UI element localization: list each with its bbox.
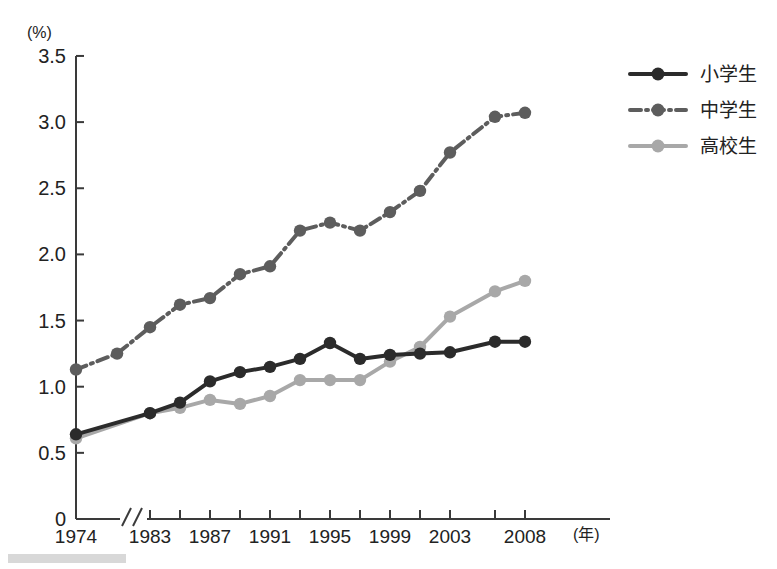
data-point (354, 353, 366, 365)
y-tick-label: 3.0 (38, 111, 66, 133)
data-point (324, 216, 336, 228)
data-point (144, 321, 156, 333)
data-point (204, 292, 216, 304)
data-point (324, 337, 336, 349)
footer-decoration-bar (8, 554, 126, 563)
data-point (294, 353, 306, 365)
data-point (489, 285, 501, 297)
y-axis-unit-label: (%) (27, 24, 52, 41)
x-tick-label: 2008 (504, 526, 546, 547)
x-tick-label: 1974 (55, 526, 98, 547)
data-point (264, 390, 276, 402)
data-point (294, 374, 306, 386)
data-point (489, 111, 501, 123)
data-point (324, 374, 336, 386)
x-tick-label: 2003 (429, 526, 471, 547)
data-point (111, 347, 123, 359)
x-tick-label: 1987 (189, 526, 231, 547)
data-point (384, 349, 396, 361)
legend-label: 小学生 (700, 63, 757, 85)
x-tick-label: 1999 (369, 526, 411, 547)
data-point (444, 146, 456, 158)
data-point (519, 336, 531, 348)
y-tick-label: 2.5 (38, 177, 66, 199)
data-point (70, 363, 82, 375)
data-point (519, 107, 531, 119)
y-tick-label: 1.0 (38, 376, 66, 398)
data-point (174, 299, 186, 311)
data-point (204, 394, 216, 406)
data-point (519, 275, 531, 287)
data-point (144, 407, 156, 419)
data-point (354, 374, 366, 386)
data-point (234, 366, 246, 378)
legend-label: 中学生 (700, 99, 757, 121)
y-tick-label: 3.5 (38, 45, 66, 67)
legend-marker-icon (652, 68, 665, 81)
data-point (264, 260, 276, 272)
y-tick-label: 0.5 (38, 442, 66, 464)
data-point (384, 206, 396, 218)
x-axis-unit-label: (年) (573, 526, 600, 543)
chart-canvas: (%) 00.51.01.52.02.53.03.5 1974198319871… (0, 0, 777, 569)
legend-marker-icon (652, 104, 665, 117)
y-tick-label: 2.0 (38, 243, 66, 265)
data-point (264, 361, 276, 373)
data-point (354, 224, 366, 236)
data-point (444, 346, 456, 358)
data-point (489, 336, 501, 348)
x-tick-label: 1991 (249, 526, 291, 547)
y-tick-label: 1.5 (38, 310, 66, 332)
data-point (444, 310, 456, 322)
line-chart: (%) 00.51.01.52.02.53.03.5 1974198319871… (0, 0, 777, 569)
x-axis-unit: (年) (573, 526, 600, 543)
data-point (414, 347, 426, 359)
data-point (234, 398, 246, 410)
data-point (174, 396, 186, 408)
y-axis-unit: (%) (27, 24, 52, 41)
legend-marker-icon (652, 140, 665, 153)
x-tick-label: 1983 (129, 526, 171, 547)
legend-label: 高校生 (700, 135, 757, 157)
data-point (204, 375, 216, 387)
x-tick-label: 1995 (309, 526, 351, 547)
data-point (70, 428, 82, 440)
data-point (414, 185, 426, 197)
chart-background (0, 0, 777, 569)
data-point (234, 268, 246, 280)
data-point (294, 224, 306, 236)
